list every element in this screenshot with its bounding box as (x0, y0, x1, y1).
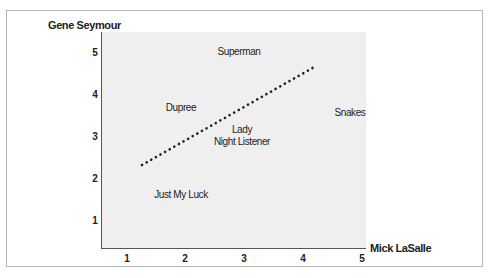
dotted-trend-line (142, 66, 316, 165)
trend-line-layer (0, 0, 489, 278)
